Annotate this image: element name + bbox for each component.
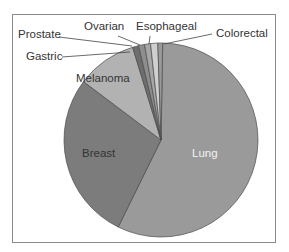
leader-prostate <box>59 37 132 46</box>
label-esophageal: Esophageal <box>136 20 197 32</box>
leader-colorectal <box>164 34 212 44</box>
label-ovarian: Ovarian <box>84 20 124 32</box>
label-gastric: Gastric <box>26 50 63 62</box>
leader-ovarian <box>118 36 140 45</box>
label-melanoma: Melanoma <box>76 72 130 84</box>
label-lung: Lung <box>192 147 218 159</box>
label-colorectal: Colorectal <box>216 27 268 39</box>
label-breast: Breast <box>82 147 116 159</box>
label-prostate: Prostate <box>18 28 61 40</box>
leader-esophageal <box>149 36 150 44</box>
pie-chart: Prostate Gastric Ovarian Esophageal Colo… <box>0 0 289 252</box>
